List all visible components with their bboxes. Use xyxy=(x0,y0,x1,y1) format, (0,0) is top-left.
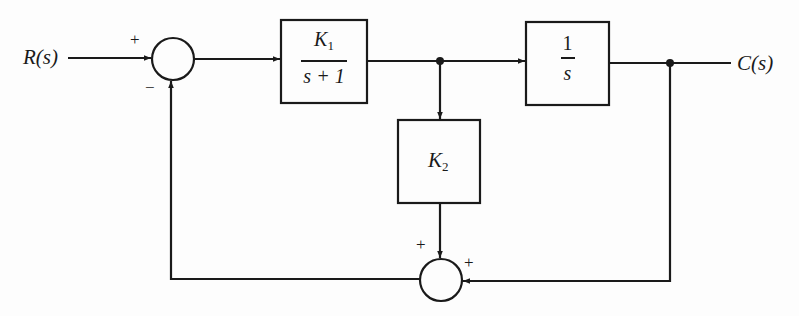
g1-numerator: K xyxy=(314,28,327,50)
summing-junction-1 xyxy=(152,38,194,80)
sum1-sign-left: + xyxy=(130,30,140,50)
h-label: K xyxy=(428,148,442,172)
h-label-sub: 2 xyxy=(442,159,449,174)
g2-fraction-bar xyxy=(561,57,575,59)
g1-numerator-sub: 1 xyxy=(327,38,334,53)
g1-denominator: s + 1 xyxy=(303,65,344,87)
sum1-sign-bottom: − xyxy=(145,78,155,98)
g1-fraction-bar xyxy=(301,60,347,62)
block-g1-label: K1 s + 1 xyxy=(281,28,367,87)
branch-point-1 xyxy=(436,57,444,65)
input-label: R(s) xyxy=(23,45,58,70)
block-g2-label: 1 s xyxy=(526,32,609,84)
summing-junction-2 xyxy=(420,259,462,301)
block-diagram: R(s) C(s) + − + + K1 s + 1 1 s K2 xyxy=(0,0,799,316)
g2-denominator: s xyxy=(564,62,572,84)
diagram-lines xyxy=(0,0,799,316)
sum2-sign-top: + xyxy=(416,235,426,255)
branch-point-2 xyxy=(666,59,674,67)
sum2-sign-right: + xyxy=(464,253,474,273)
output-label: C(s) xyxy=(737,51,773,76)
g2-numerator: 1 xyxy=(563,32,573,54)
block-h-label: K2 xyxy=(428,148,449,175)
